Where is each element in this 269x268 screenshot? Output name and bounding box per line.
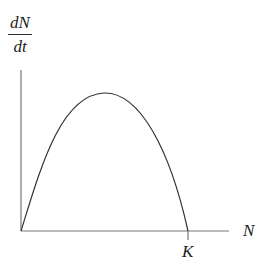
growth-curve [21,93,188,231]
x-axis-label: N [243,222,254,239]
k-tick-label: K [182,243,193,260]
y-axis-label: dN dt [8,14,32,56]
y-label-numerator: dN [8,14,32,32]
plot-area [0,0,269,268]
y-label-denominator: dt [8,38,32,56]
logistic-growth-diagram: dN dt N K [0,0,269,268]
fraction-bar [8,34,32,35]
